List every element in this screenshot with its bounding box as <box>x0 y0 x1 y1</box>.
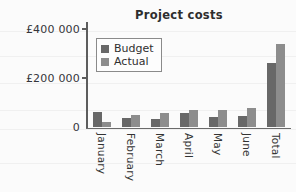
bar-budget-total <box>267 63 276 127</box>
bar-actual-february <box>131 115 140 127</box>
bar-group <box>116 24 145 127</box>
bar-actual-june <box>247 108 256 127</box>
x-axis-tick-label-may: May <box>204 131 233 189</box>
bar-budget-february <box>122 118 131 127</box>
x-axis-categories: JanuaryFebruaryMarchAprilMayJuneTotal <box>87 131 291 189</box>
x-axis-label-text: May <box>212 133 224 155</box>
x-axis-label-text: January <box>96 133 108 174</box>
x-axis-tick-label-total: Total <box>262 131 291 189</box>
bar-group <box>233 24 262 127</box>
bar-budget-january <box>93 112 102 127</box>
x-axis-label-text: February <box>125 133 137 181</box>
bar-budget-march <box>151 119 160 127</box>
y-axis-label-text: £200 000 <box>26 72 80 85</box>
x-axis-tick-label-june: June <box>233 131 262 189</box>
bar-group <box>262 24 291 127</box>
bar-actual-may <box>218 110 227 127</box>
chart-title: Project costs <box>0 8 296 22</box>
bar-groups <box>87 24 291 127</box>
x-axis-label-text: June <box>241 133 253 157</box>
bar-actual-april <box>189 110 198 127</box>
x-axis-label-text: Total <box>270 133 282 159</box>
bar-group <box>204 24 233 127</box>
x-axis-tick-label-april: April <box>174 131 203 189</box>
bar-budget-april <box>180 113 189 127</box>
x-axis-tick-label-march: March <box>145 131 174 189</box>
bar-group <box>87 24 116 127</box>
y-axis-label-text: 0 <box>73 121 80 134</box>
x-axis-label-text: April <box>183 133 195 158</box>
bar-budget-may <box>209 117 218 127</box>
bar-budget-june <box>238 116 247 127</box>
y-axis-label-text: £400 000 <box>26 23 80 36</box>
bar-actual-march <box>160 113 169 127</box>
bar-group <box>174 24 203 127</box>
x-axis-line <box>86 128 291 129</box>
chart-canvas: Project costs £400 000 £200 000 0 Budget… <box>0 0 296 192</box>
x-axis-tick-label-january: January <box>87 131 116 189</box>
x-axis-tick-label-february: February <box>116 131 145 189</box>
x-axis-label-text: March <box>154 133 166 166</box>
bar-actual-january <box>102 122 111 127</box>
bar-group <box>145 24 174 127</box>
bar-actual-total <box>276 44 285 127</box>
